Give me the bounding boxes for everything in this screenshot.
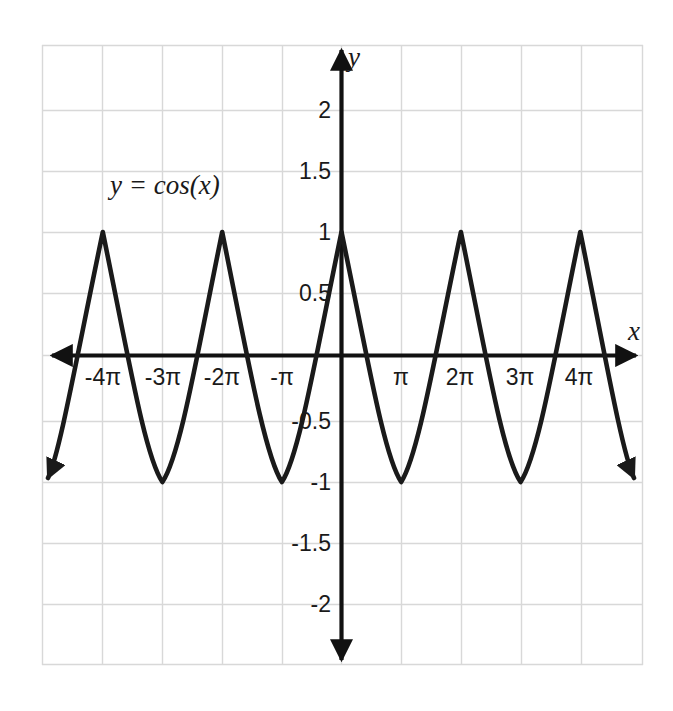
x-tick-label-neg-3pi: -3π [145,366,181,389]
y-tick-label-1: 1 [318,221,331,244]
y-tick-label-neg-1: -1 [311,471,331,494]
x-tick-label-2pi: 2π [446,366,475,389]
equation-annotation: y = cos(x) [110,172,220,199]
x-tick-label-neg-4pi: -4π [85,366,121,389]
x-tick-label-4pi: 4π [565,366,594,389]
x-axis-label: x [628,318,640,345]
y-tick-label-neg-0-5: -0.5 [291,410,331,433]
y-tick-label-0-5: 0.5 [299,282,331,305]
y-tick-label-neg-2: -2 [311,593,331,616]
y-tick-label-1-5: 1.5 [299,160,331,183]
y-tick-label-neg-1-5: -1.5 [291,532,331,555]
x-tick-label-neg-pi: -π [270,366,294,389]
y-tick-label-2: 2 [318,99,331,122]
x-tick-label-neg-2pi: -2π [204,366,240,389]
plot-canvas [0,0,673,711]
x-tick-label-3pi: 3π [506,366,535,389]
cosine-graph-figure: 2 1.5 1 0.5 -0.5 -1 -1.5 -2 -4π -3π -2π … [0,0,673,711]
y-axis-label: y [348,44,360,71]
x-tick-label-pi: π [393,366,409,389]
